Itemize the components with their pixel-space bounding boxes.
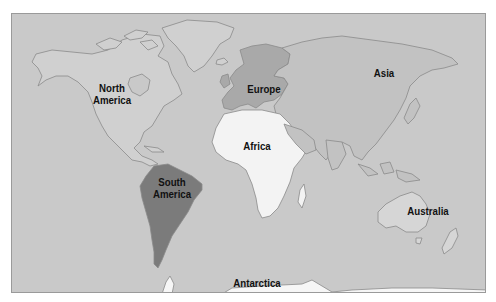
label-africa: Africa [235,140,279,152]
label-europe: Europe [239,83,288,95]
label-asia: Asia [366,67,401,79]
label-south-america-line1: South [147,176,196,188]
label-south-america: South America [147,176,196,200]
label-south-america-line2: America [147,188,196,200]
world-map: North America South America Europe Asia … [11,13,486,293]
label-north-america-line1: North [87,82,136,94]
label-australia: Australia [402,205,455,217]
map-canvas [12,14,486,293]
label-north-america: North America [87,82,136,106]
label-antarctica: Antarctica [226,277,288,289]
label-north-america-line2: America [87,94,136,106]
